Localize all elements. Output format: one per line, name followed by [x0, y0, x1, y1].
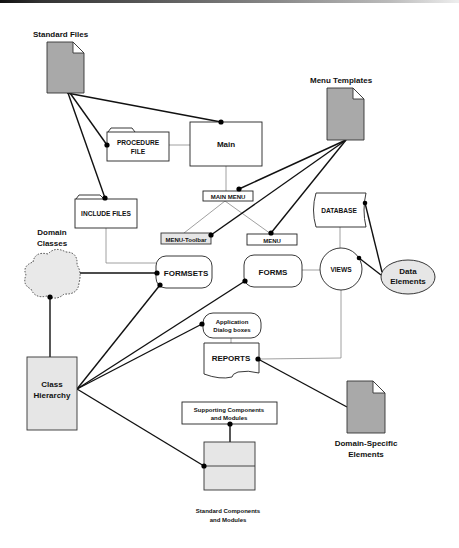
folder-tab-icon [108, 128, 135, 132]
node-formsets: FORMSETS [156, 256, 212, 288]
cloud-icon [25, 249, 80, 298]
menu-templates-label: Menu Templates [310, 76, 373, 85]
page-fold-icon [373, 381, 385, 393]
procedure-file-label-line1: PROCEDURE [117, 139, 160, 146]
menu-label: MENU [263, 238, 281, 244]
views-label: VIEWS [330, 266, 352, 273]
connector-dot [255, 356, 260, 361]
node-procedure-file: PROCEDURE FILE [107, 128, 169, 161]
edge-include-formsets [106, 228, 156, 263]
connector-dot [102, 195, 107, 200]
node-supporting-components: Supporting Components and Modules [182, 402, 277, 424]
node-reports: REPORTS [204, 343, 259, 378]
supporting-components-label-line1: Supporting Components [194, 407, 265, 413]
node-domain-classes: Domain Classes [25, 228, 80, 298]
connector-dot [201, 463, 206, 468]
connector-dot [218, 119, 223, 124]
node-standard-components: Standard Components and Modules [196, 442, 261, 523]
folder-tab-icon [76, 195, 104, 199]
domain-specific-label-line2: Elements [348, 450, 384, 459]
formsets-label: FORMSETS [164, 269, 209, 278]
include-files-label: INCLUDE FILES [81, 210, 131, 217]
connector-dot [227, 421, 232, 426]
folder-icon [107, 132, 169, 161]
data-elements-label-line1: Data [399, 267, 417, 276]
node-data-elements: Data Elements [381, 260, 435, 294]
connector-dot [236, 186, 241, 191]
main-label: Main [217, 140, 235, 149]
edge-views-reports [260, 290, 341, 359]
dialog-boxes-label-line1: Application [216, 319, 249, 325]
connector-dot [242, 278, 247, 283]
reports-label: REPORTS [212, 354, 251, 363]
edge-hierarchy-dialogs [77, 324, 202, 389]
connector-dot [363, 201, 368, 206]
domain-classes-label-line2: Classes [37, 239, 68, 248]
edge-mainmenu-menu [225, 201, 271, 234]
node-standard-files: Standard Files [33, 30, 89, 93]
node-application-dialog-boxes: Application Dialog boxes [203, 313, 261, 338]
connector-dot [154, 270, 159, 275]
dialog-boxes-label-line2: Dialog boxes [213, 327, 251, 333]
standard-components-label-line2: and Modules [210, 517, 247, 523]
connector-dot [268, 230, 273, 235]
edge-reports-domainspecific [258, 359, 347, 407]
node-class-hierarchy: Class Hierarchy [27, 357, 77, 430]
domain-specific-label-line1: Domain-Specific [335, 439, 398, 448]
node-main: Main [190, 122, 262, 166]
connector-dot [208, 232, 213, 237]
node-database: DATABASE [314, 193, 367, 227]
edge-mainmenu-toolbar [184, 201, 225, 233]
node-menu-templates: Menu Templates [310, 76, 373, 140]
database-label: DATABASE [321, 207, 357, 214]
standard-components-label-line1: Standard Components [196, 508, 261, 514]
edge-stdfiles-procedure [70, 93, 107, 145]
procedure-file-label-line2: FILE [131, 148, 146, 155]
connector-dot [199, 321, 204, 326]
node-domain-specific-elements: Domain-Specific Elements [335, 381, 398, 459]
dialog-boxes-box [203, 313, 261, 338]
node-menu-toolbar: MENU-Toolbar [161, 233, 211, 244]
node-menu: MENU [247, 234, 297, 245]
architecture-diagram: Standard Files PROCEDURE FILE Main INCLU… [0, 0, 459, 548]
page-fold-icon [73, 42, 84, 53]
edge-stdfiles-main [67, 93, 221, 122]
data-elements-label-line2: Elements [390, 277, 426, 286]
edge-database-dataelements [365, 203, 382, 272]
menu-toolbar-label: MENU-Toolbar [165, 237, 207, 243]
class-hierarchy-label-line1: Class [41, 380, 63, 389]
connector-dot [157, 282, 162, 287]
edge-stdfiles-include [68, 93, 105, 198]
standard-files-label: Standard Files [33, 30, 89, 39]
connector-dot [47, 294, 52, 299]
connector-dot [357, 256, 362, 261]
node-main-menu: MAIN MENU [203, 191, 253, 201]
domain-classes-label-line1: Domain [37, 228, 66, 237]
connector-dot [104, 142, 109, 147]
forms-label: FORMS [259, 268, 289, 277]
node-forms: FORMS [244, 255, 302, 287]
main-menu-label: MAIN MENU [211, 194, 246, 200]
class-hierarchy-label-line2: Hierarchy [34, 391, 71, 400]
page-fold-icon [353, 88, 364, 99]
edge-hierarchy-stdcomponents [77, 389, 204, 466]
edge-hierarchy-formsets [77, 285, 160, 389]
supporting-components-label-line2: and Modules [211, 415, 248, 421]
node-views: VIEWS [320, 248, 362, 290]
